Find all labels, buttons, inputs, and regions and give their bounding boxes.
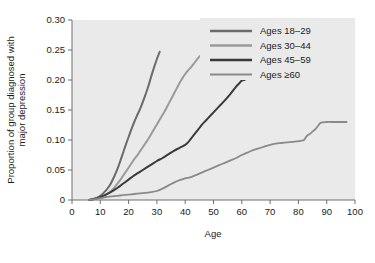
legend-label-1: Ages 18–29 (260, 25, 311, 36)
y-axis-ticks: 00.050.100.150.200.250.30 (47, 14, 73, 205)
y-tick-label: 0 (60, 194, 65, 205)
x-tick-label: 20 (123, 206, 134, 217)
y-tick-label: 0.15 (47, 104, 66, 115)
x-tick-label: 90 (321, 206, 332, 217)
x-axis-ticks: 0102030405060708090100 (69, 200, 363, 217)
x-tick-label: 50 (208, 206, 219, 217)
x-tick-label: 30 (152, 206, 163, 217)
x-tick-label: 100 (347, 206, 363, 217)
legend-label-2: Ages 30–44 (260, 40, 311, 51)
chart-legend: Ages 18–29Ages 30–44Ages 45–59Ages ≥60 (200, 18, 355, 80)
y-tick-label: 0.05 (47, 164, 66, 175)
y-axis-title-line2: major depression (16, 74, 27, 147)
depression-cumulative-incidence-chart: 00.050.100.150.200.250.30 01020304050607… (0, 0, 375, 263)
x-tick-label: 0 (69, 206, 74, 217)
x-tick-label: 80 (293, 206, 304, 217)
chart-figure: 00.050.100.150.200.250.30 01020304050607… (0, 0, 375, 263)
x-tick-label: 10 (95, 206, 106, 217)
x-tick-label: 70 (265, 206, 276, 217)
legend-label-3: Ages 45–59 (260, 54, 311, 65)
x-tick-label: 40 (180, 206, 191, 217)
x-tick-label: 60 (237, 206, 248, 217)
y-tick-label: 0.10 (47, 134, 66, 145)
x-axis-title: Age (205, 228, 222, 239)
y-axis-title-line1: Proportion of group diagnosed with (5, 36, 16, 183)
y-tick-label: 0.20 (47, 74, 66, 85)
legend-label-4: Ages ≥60 (260, 69, 300, 80)
y-tick-label: 0.30 (47, 14, 66, 25)
y-tick-label: 0.25 (47, 44, 66, 55)
